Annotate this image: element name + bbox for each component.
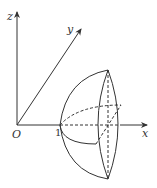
z-axis-label: z (6, 10, 13, 23)
y-axis-label: y (66, 23, 74, 36)
y-axis (17, 29, 81, 125)
tick-label-1: 1 (55, 127, 61, 138)
horizontal-ellipse-back (60, 105, 121, 125)
x-axis-label: x (142, 127, 149, 140)
horizontal-ellipse-front (60, 125, 96, 144)
origin-label: O (12, 128, 21, 141)
diagram-canvas: z y x O 1 (0, 0, 157, 188)
